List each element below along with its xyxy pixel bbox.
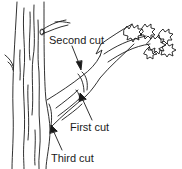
second-cut-label: Second cut bbox=[49, 34, 104, 46]
leaf-cluster bbox=[124, 24, 176, 59]
second-cut-arrow bbox=[72, 46, 82, 70]
pruning-diagram: Second cut First cut Third cut bbox=[0, 0, 182, 169]
tree-illustration bbox=[0, 0, 182, 169]
trunk bbox=[5, 2, 50, 169]
first-cut-label: First cut bbox=[70, 121, 109, 133]
third-cut-label: Third cut bbox=[51, 152, 94, 164]
first-cut-arrow bbox=[79, 93, 92, 120]
third-cut-arrow bbox=[50, 125, 62, 150]
